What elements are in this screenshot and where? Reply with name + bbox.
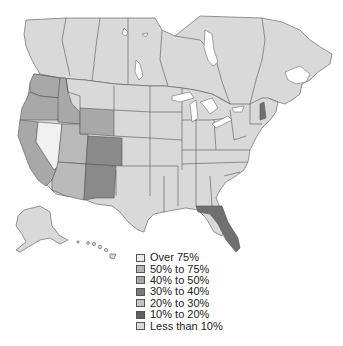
state-colorado	[86, 136, 122, 166]
legend-label: Over 75%	[150, 252, 199, 263]
legend-label: 10% to 20%	[150, 309, 209, 320]
state-new-mexico	[84, 164, 116, 200]
legend-swatch	[136, 322, 145, 330]
legend: Over 75% 50% to 75% 40% to 50% 30% to 40…	[136, 252, 223, 332]
hawaii-region	[77, 241, 116, 259]
legend-item-30-40: 30% to 40%	[136, 286, 223, 297]
alaska-region	[16, 206, 68, 252]
legend-swatch	[136, 265, 145, 273]
legend-swatch	[136, 311, 145, 319]
legend-label: 20% to 30%	[150, 298, 209, 309]
legend-swatch	[136, 254, 145, 262]
legend-item-less-10: Less than 10%	[136, 320, 223, 331]
legend-label: 40% to 50%	[150, 275, 209, 286]
legend-label: Less than 10%	[150, 321, 223, 332]
legend-label: 50% to 75%	[150, 264, 209, 275]
legend-item-10-20: 10% to 20%	[136, 309, 223, 320]
legend-swatch	[136, 276, 145, 284]
legend-swatch	[136, 299, 145, 307]
state-wyoming	[80, 108, 114, 136]
legend-item-over-75: Over 75%	[136, 252, 223, 263]
legend-label: 30% to 40%	[150, 286, 209, 297]
legend-swatch	[136, 288, 145, 296]
